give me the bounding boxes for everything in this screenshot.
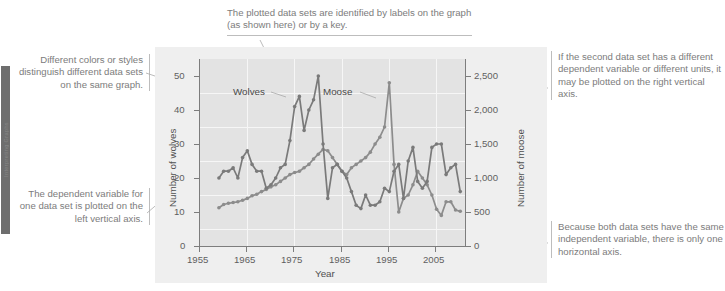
xtick-1995: [388, 247, 389, 252]
y2ticklabel-1000: 1,000: [474, 172, 498, 183]
y2ticklabel-0: 0: [474, 240, 479, 251]
xticklabel-1975: 1975: [281, 254, 302, 265]
y2ticklabel-500: 500: [474, 206, 490, 217]
left-axis-line: [199, 59, 200, 247]
xtick-1955: [199, 247, 200, 252]
ytick-10: [194, 212, 199, 213]
y2ticklabel-2000: 2,000: [474, 104, 498, 115]
xticklabel-1955: 1955: [187, 254, 208, 265]
yticklabel-40: 40: [174, 104, 185, 115]
y2tick-2500: [466, 76, 471, 77]
xtick-1965: [246, 247, 247, 252]
xtick-1975: [293, 247, 294, 252]
y2ticklabel-1500: 1,500: [474, 138, 498, 149]
y2-axis-title: Number of moose: [515, 129, 526, 207]
y2tick-500: [466, 212, 471, 213]
series-label-wolves: Wolves: [233, 86, 265, 97]
yticklabel-50: 50: [174, 70, 185, 81]
x-axis-line: [199, 246, 466, 247]
xticklabel-1995: 1995: [376, 254, 397, 265]
annotation-top: The plotted data sets are identified by …: [227, 7, 472, 36]
y2tick-1000: [466, 178, 471, 179]
right-axis-line: [465, 59, 466, 247]
ytick-50: [194, 76, 199, 77]
ytick-30: [194, 144, 199, 145]
series-moose: [217, 81, 462, 217]
yticklabel-10: 10: [174, 206, 185, 217]
y2ticklabel-2500: 2,500: [474, 70, 498, 81]
annotation-right-upper: If the second data set has a different d…: [551, 51, 725, 100]
xticklabel-2005: 2005: [423, 254, 444, 265]
xtick-2005: [435, 247, 436, 252]
xtick-1985: [341, 247, 342, 252]
annotation-left-lower: The dependent variable for one data set …: [12, 188, 150, 225]
y2tick-2000: [466, 110, 471, 111]
xticklabel-1985: 1985: [329, 254, 350, 265]
y2tick-0: [466, 246, 471, 247]
x-axis-title: Year: [315, 268, 335, 279]
ytick-20: [194, 178, 199, 179]
chart-panel: 0 10 20 30 40 50 0 500 1,000 1,500 2,000…: [155, 47, 547, 283]
page-edge-tab: Interpreting Graphs: [1, 66, 10, 234]
series-label-moose: Moose: [323, 86, 352, 97]
y-axis-title: Number of wolves: [167, 129, 178, 207]
annotation-left-upper: Different colors or styles distinguish d…: [18, 54, 150, 91]
xticklabel-1965: 1965: [234, 254, 255, 265]
yticklabel-0: 0: [180, 240, 185, 251]
page-edge-tab-label: Interpreting Graphs: [2, 66, 11, 234]
figure-root: Interpreting Graphs The plotted data set…: [0, 0, 725, 291]
annotation-right-lower: Because both data sets have the same ind…: [551, 221, 725, 258]
y2tick-1500: [466, 144, 471, 145]
ytick-40: [194, 110, 199, 111]
